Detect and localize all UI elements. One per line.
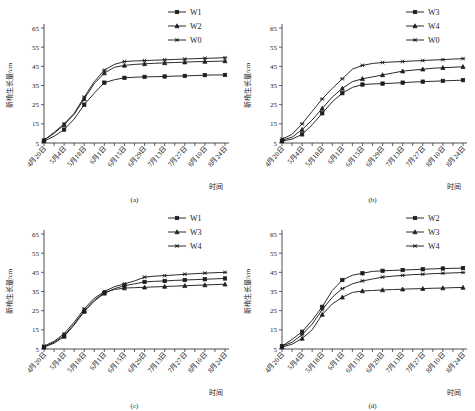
series-W3 [280,285,465,349]
data-point [62,128,65,131]
series-W4 [280,65,465,142]
data-point [441,267,444,270]
chart-panel-c: 51525354555654月20日5月4日5月18日6月1日6月15日6月29… [0,206,237,411]
x-tick-label: 7月27日 [166,351,188,375]
data-point [441,79,444,82]
series-W0 [280,57,465,141]
legend-label-W3: W3 [190,228,202,237]
data-point [421,272,425,276]
y-tick-label: 35 [270,82,278,90]
legend-marker-W2 [413,216,416,219]
data-point [223,277,226,280]
legend: W1W2W0 [168,8,202,45]
data-point [203,271,207,275]
y-tick-label: 45 [270,63,278,71]
series-W4 [280,271,465,348]
data-point [380,61,384,65]
data-point [340,287,344,291]
data-point [340,86,344,90]
x-tick-label: 5月18日 [304,351,326,375]
legend-marker-W0 [413,38,417,42]
data-point [400,60,404,64]
x-tick-label: 7月27日 [166,145,188,169]
legend-label-W4: W4 [428,242,440,251]
data-point [380,275,384,279]
data-point [163,75,166,78]
y-tick-label: 65 [32,231,40,239]
x-axis-title: 时间 [447,388,461,397]
series-line [44,278,225,347]
y-axis-title: 新梢生长量/cm [243,62,252,108]
data-point [143,280,146,283]
legend: W1W3W4 [168,214,202,251]
x-tick-label: 6月29日 [364,145,386,169]
legend-marker-W0 [175,38,179,42]
data-point [360,279,364,283]
series-W2 [42,59,227,142]
data-point [183,278,186,281]
y-tick-label: 55 [270,250,278,258]
y-tick-label: 25 [270,307,278,315]
legend-label-W1: W1 [190,214,202,223]
y-tick-label: 35 [32,288,40,296]
y-tick-label: 65 [270,231,278,239]
x-tick-label: 8月24日 [207,145,229,169]
data-point [400,274,404,278]
x-tick-label: 7月13日 [384,351,406,375]
series-W0 [42,56,227,142]
data-point [300,133,303,136]
legend-marker-W4 [413,244,417,248]
series-line [282,80,463,141]
data-point [223,271,227,275]
y-tick-label: 65 [270,25,278,33]
y-tick-label: 25 [270,101,278,109]
panel-caption: (b) [368,196,377,204]
legend-label-W0: W0 [428,36,440,45]
y-tick-label: 55 [32,250,40,258]
x-tick-label: 7月13日 [146,351,168,375]
x-tick-label: 4月20日 [264,351,286,375]
panel-caption: (d) [368,402,377,410]
series-line [282,273,463,347]
data-point [203,73,206,76]
y-axis-title: 新梢生长量/cm [5,62,14,108]
data-point [142,275,146,279]
data-point [341,278,344,281]
data-point [401,268,404,271]
x-tick-label: 6月29日 [126,351,148,375]
data-point [320,97,324,101]
chart-svg: 51525354555654月20日5月4日5月18日6月1日6月15日6月29… [238,206,475,411]
data-point [381,82,384,85]
series-line [44,75,225,141]
y-tick-label: 5 [274,346,278,354]
series-line [44,58,225,140]
x-tick-label: 8月24日 [445,145,467,169]
data-point [360,64,364,68]
data-point [421,80,424,83]
legend-marker-W1 [175,216,178,219]
data-point [223,73,226,76]
x-tick-label: 4月20日 [264,145,286,169]
chart-panel-d: 51525354555654月20日5月4日5月18日6月1日6月15日6月29… [238,206,475,411]
data-point [321,112,324,115]
legend-label-W0: W0 [190,36,202,45]
y-tick-label: 55 [32,44,40,52]
x-tick-label: 6月29日 [364,351,386,375]
series-line [44,284,225,347]
legend-marker-W3 [413,10,416,13]
y-tick-label: 45 [32,269,40,277]
y-tick-label: 35 [32,82,40,90]
y-tick-label: 25 [32,307,40,315]
y-tick-label: 25 [32,101,40,109]
x-tick-label: 6月15日 [344,145,366,169]
x-tick-label: 6月15日 [344,351,366,375]
legend-label-W4: W4 [190,242,202,251]
data-point [361,83,364,86]
legend-label-W3: W3 [428,8,440,17]
data-point [401,81,404,84]
y-tick-label: 15 [270,326,278,334]
data-point [103,81,106,84]
y-tick-label: 5 [274,140,278,148]
data-point [421,268,424,271]
data-point [83,103,86,106]
